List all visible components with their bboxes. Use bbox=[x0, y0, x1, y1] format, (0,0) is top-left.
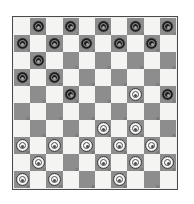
board-square-37[interactable]: 37 bbox=[46, 137, 62, 154]
board-square-16[interactable]: 16 bbox=[14, 69, 30, 86]
board-square-25[interactable]: 25 bbox=[160, 86, 176, 103]
light-piece-on-square-47[interactable] bbox=[48, 173, 61, 186]
light-piece-on-square-34[interactable] bbox=[129, 122, 142, 135]
dark-piece-on-square-8[interactable] bbox=[80, 37, 93, 50]
board-square-2[interactable]: 2 bbox=[63, 18, 79, 35]
board-square-49[interactable]: 49 bbox=[111, 171, 127, 188]
light-piece-on-square-43[interactable] bbox=[97, 156, 110, 169]
board-square-48[interactable]: 48 bbox=[79, 171, 95, 188]
board-square-light-r8c10 bbox=[160, 137, 176, 154]
light-piece-on-square-46[interactable] bbox=[16, 173, 29, 186]
light-piece-on-square-36[interactable] bbox=[16, 139, 29, 152]
board-square-light-r1c5 bbox=[79, 18, 95, 35]
board-square-42[interactable]: 42 bbox=[63, 154, 79, 171]
board-square-32[interactable]: 32 bbox=[63, 120, 79, 137]
board-square-35[interactable]: 35 bbox=[160, 120, 176, 137]
board-square-36[interactable]: 36 bbox=[14, 137, 30, 154]
board-square-23[interactable]: 23 bbox=[95, 86, 111, 103]
dark-piece-on-square-11[interactable] bbox=[32, 54, 45, 67]
board-square-8[interactable]: 8 bbox=[79, 35, 95, 52]
board-square-33[interactable]: 33 bbox=[95, 120, 111, 137]
light-piece-on-square-49[interactable] bbox=[113, 173, 126, 186]
square-number-label: 50 bbox=[156, 185, 159, 189]
dark-piece-on-square-25[interactable] bbox=[161, 88, 174, 101]
board-square-44[interactable]: 44 bbox=[127, 154, 143, 171]
board-square-15[interactable]: 15 bbox=[160, 52, 176, 69]
board-square-9[interactable]: 9 bbox=[111, 35, 127, 52]
board-square-light-r10c4 bbox=[63, 171, 79, 188]
board-square-41[interactable]: 41 bbox=[30, 154, 46, 171]
board-square-50[interactable]: 50 bbox=[144, 171, 160, 188]
dark-piece-on-square-16[interactable] bbox=[16, 71, 29, 84]
board-square-10[interactable]: 10 bbox=[144, 35, 160, 52]
board-square-46[interactable]: 46 bbox=[14, 171, 30, 188]
board-square-6[interactable]: 6 bbox=[14, 35, 30, 52]
board-square-18[interactable]: 18 bbox=[79, 69, 95, 86]
dark-piece-on-square-5[interactable] bbox=[161, 20, 174, 33]
draughts-board-grid[interactable]: 1234567891011121314151617181920212223242… bbox=[14, 18, 176, 188]
square-number-label: 48 bbox=[91, 185, 94, 189]
board-square-19[interactable]: 19 bbox=[111, 69, 127, 86]
checkers-screenshot-root: 1234567891011121314151617181920212223242… bbox=[0, 0, 194, 204]
dark-piece-on-square-1[interactable] bbox=[32, 20, 45, 33]
dark-piece-on-square-2[interactable] bbox=[64, 20, 77, 33]
board-square-1[interactable]: 1 bbox=[30, 18, 46, 35]
board-square-26[interactable]: 26 bbox=[14, 103, 30, 120]
light-piece-on-square-24[interactable] bbox=[129, 88, 142, 101]
dark-piece-on-square-6[interactable] bbox=[16, 37, 29, 50]
light-piece-on-square-37[interactable] bbox=[48, 139, 61, 152]
board-square-45[interactable]: 45 bbox=[160, 154, 176, 171]
board-square-light-r7c1 bbox=[14, 120, 30, 137]
dark-piece-on-square-17[interactable] bbox=[48, 71, 61, 84]
dark-piece-on-square-9[interactable] bbox=[113, 37, 126, 50]
board-square-34[interactable]: 34 bbox=[127, 120, 143, 137]
light-piece-on-square-33[interactable] bbox=[97, 122, 110, 135]
dark-piece-on-square-7[interactable] bbox=[48, 37, 61, 50]
board-square-7[interactable]: 7 bbox=[46, 35, 62, 52]
dark-piece-on-square-10[interactable] bbox=[145, 37, 158, 50]
board-square-light-r9c1 bbox=[14, 154, 30, 171]
board-square-47[interactable]: 47 bbox=[46, 171, 62, 188]
board-square-17[interactable]: 17 bbox=[46, 69, 62, 86]
board-square-21[interactable]: 21 bbox=[30, 86, 46, 103]
board-square-12[interactable]: 12 bbox=[63, 52, 79, 69]
board-square-28[interactable]: 28 bbox=[79, 103, 95, 120]
board-square-40[interactable]: 40 bbox=[144, 137, 160, 154]
board-square-light-r5c9 bbox=[144, 86, 160, 103]
board-square-5[interactable]: 5 bbox=[160, 18, 176, 35]
board-square-3[interactable]: 3 bbox=[95, 18, 111, 35]
board-square-light-r9c5 bbox=[79, 154, 95, 171]
board-square-light-r4c2 bbox=[30, 69, 46, 86]
board-square-39[interactable]: 39 bbox=[111, 137, 127, 154]
dark-piece-on-square-3[interactable] bbox=[97, 20, 110, 33]
board-square-light-r3c5 bbox=[79, 52, 95, 69]
board-square-light-r3c7 bbox=[111, 52, 127, 69]
board-square-31[interactable]: 31 bbox=[30, 120, 46, 137]
board-square-light-r8c2 bbox=[30, 137, 46, 154]
board-square-light-r4c10 bbox=[160, 69, 176, 86]
board-square-27[interactable]: 27 bbox=[46, 103, 62, 120]
light-piece-on-square-41[interactable] bbox=[32, 156, 45, 169]
board-square-14[interactable]: 14 bbox=[127, 52, 143, 69]
square-number-label: 47 bbox=[59, 185, 62, 189]
board-square-light-r2c8 bbox=[127, 35, 143, 52]
board-square-13[interactable]: 13 bbox=[95, 52, 111, 69]
board-square-light-r4c4 bbox=[63, 69, 79, 86]
board-square-22[interactable]: 22 bbox=[63, 86, 79, 103]
light-piece-on-square-39[interactable] bbox=[113, 139, 126, 152]
board-square-43[interactable]: 43 bbox=[95, 154, 111, 171]
board-square-30[interactable]: 30 bbox=[144, 103, 160, 120]
board-square-light-r2c6 bbox=[95, 35, 111, 52]
light-piece-on-square-38[interactable] bbox=[80, 139, 93, 152]
light-piece-on-square-40[interactable] bbox=[145, 139, 158, 152]
board-square-4[interactable]: 4 bbox=[127, 18, 143, 35]
board-square-11[interactable]: 11 bbox=[30, 52, 46, 69]
dark-piece-on-square-22[interactable] bbox=[64, 88, 77, 101]
board-square-20[interactable]: 20 bbox=[144, 69, 160, 86]
board-square-24[interactable]: 24 bbox=[127, 86, 143, 103]
board-square-29[interactable]: 29 bbox=[111, 103, 127, 120]
dark-piece-on-square-4[interactable] bbox=[129, 20, 142, 33]
light-piece-on-square-45[interactable] bbox=[161, 156, 174, 169]
light-piece-on-square-44[interactable] bbox=[129, 156, 142, 169]
board-square-38[interactable]: 38 bbox=[79, 137, 95, 154]
